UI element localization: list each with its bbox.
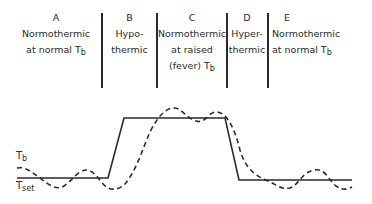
tb-label: Tb: [16, 150, 27, 163]
tb-curve: [17, 108, 352, 189]
tset-curve: [17, 118, 352, 180]
tset-label: Tset: [16, 180, 34, 193]
temperature-curves: [0, 0, 372, 204]
